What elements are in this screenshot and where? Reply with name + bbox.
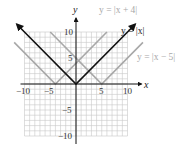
tick-label-x-neg10: −10 (16, 86, 31, 96)
absolute-value-graph: x y −10 −5 5 10 10 5 −5 −10 y = |x + 4| … (0, 0, 192, 154)
tick-label-y-10: 10 (64, 27, 74, 37)
y-axis-label: y (72, 4, 78, 15)
tick-label-y-neg5: −5 (62, 105, 72, 115)
x-axis-label: x (143, 79, 149, 90)
tick-label-x-neg5: −5 (44, 86, 54, 96)
tick-label-x-5: 5 (99, 86, 104, 96)
tick-label-x-10: 10 (123, 86, 133, 96)
tick-label-y-5: 5 (68, 53, 73, 63)
tick-label-y-neg10: −10 (58, 131, 73, 141)
equation-label-abs-x-minus-5: y = |x − 5| (137, 52, 175, 62)
equation-label-abs-x: y = |x| (121, 26, 145, 36)
equation-label-abs-x-plus-4: y = |x + 4| (99, 5, 137, 15)
